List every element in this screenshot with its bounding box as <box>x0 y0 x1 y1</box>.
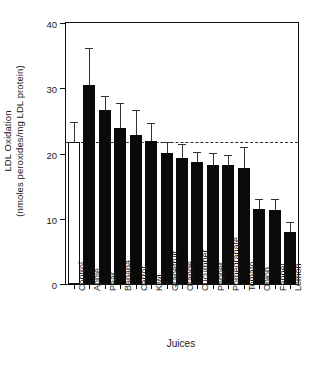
error-bar-cap-pepper <box>209 153 217 154</box>
y-tick-30: 30 <box>60 88 66 89</box>
error-bar-cap-control <box>70 122 78 123</box>
x-tick-pear <box>105 284 106 289</box>
error-bar-stem-kiwi <box>151 123 152 141</box>
error-bar-stem-onion <box>259 199 260 209</box>
bar-pear <box>99 110 111 284</box>
error-bar-stem-lemon <box>290 222 291 232</box>
x-category-label-apple: Apple <box>92 268 102 291</box>
x-category-label-lemon: Lemon <box>293 263 303 291</box>
x-tick-cucumber <box>197 284 198 289</box>
x-tick-carrot <box>136 284 137 289</box>
x-category-label-kiwi: Kiwi <box>154 274 164 291</box>
x-tick-pomegranate <box>228 284 229 289</box>
y-tick-20: 20 <box>60 154 66 155</box>
error-bar-stem-carrot <box>136 110 137 135</box>
x-category-label-tomato: Tomato <box>247 261 257 291</box>
error-bar-stem-grapefruit <box>167 142 168 153</box>
error-bar-cap-lemon <box>286 222 294 223</box>
error-bar-cap-apple <box>85 48 93 49</box>
x-category-label-onion: Onion <box>262 267 272 291</box>
error-bar-cap-tomato <box>240 147 248 148</box>
x-category-label-pepper: Pepper <box>216 262 226 291</box>
x-tick-pepper <box>213 284 214 289</box>
x-tick-tomato <box>244 284 245 289</box>
x-tick-banana <box>120 284 121 289</box>
x-tick-fennel <box>275 284 276 289</box>
error-bar-cap-fennel <box>271 199 279 200</box>
error-bar-cap-kiwi <box>147 123 155 124</box>
error-bar-stem-banana <box>120 103 121 128</box>
error-bar-stem-apple <box>89 48 90 85</box>
y-tick-label-10: 10 <box>46 214 57 225</box>
y-tick-label-30: 30 <box>46 84 57 95</box>
error-bar-stem-orange <box>182 144 183 158</box>
x-category-label-fennel: Fennel <box>278 263 288 291</box>
error-bar-cap-pear <box>101 96 109 97</box>
x-category-label-carrot: Carrot <box>139 266 149 291</box>
error-bar-cap-orange <box>178 144 186 145</box>
x-category-label-banana: Banana <box>123 260 133 291</box>
y-tick-10: 10 <box>60 219 66 220</box>
error-bar-stem-pomegranate <box>228 155 229 165</box>
error-bar-cap-banana <box>116 103 124 104</box>
plot-area: 010203040 <box>65 22 299 285</box>
error-bar-cap-cucumber <box>193 152 201 153</box>
y-tick-label-0: 0 <box>52 280 57 291</box>
y-axis-title-line-2: (nmoles peroxides/mg LDL protein) <box>14 11 25 271</box>
y-axis-title: LDL Oxidation (nmoles peroxides/mg LDL p… <box>0 0 36 290</box>
y-tick-0: 0 <box>60 284 66 285</box>
error-bar-stem-pear <box>105 96 106 110</box>
x-category-label-grapefruit: Grapefruit <box>170 251 180 291</box>
error-bar-stem-cucumber <box>197 152 198 162</box>
x-category-label-cucumber: Cucumber <box>200 249 210 291</box>
y-tick-label-40: 40 <box>46 19 57 30</box>
y-tick-label-20: 20 <box>46 149 57 160</box>
x-tick-apple <box>89 284 90 289</box>
x-axis-title: Juices <box>65 338 297 349</box>
error-bar-cap-grapefruit <box>163 142 171 143</box>
y-axis-title-line-1: LDL Oxidation <box>2 11 13 271</box>
error-bar-cap-onion <box>255 199 263 200</box>
chart-figure: LDL Oxidation (nmoles peroxides/mg LDL p… <box>0 0 318 366</box>
x-category-label-pomegranate: Pomegranate <box>231 237 241 291</box>
error-bar-cap-carrot <box>132 110 140 111</box>
x-tick-orange <box>182 284 183 289</box>
error-bar-cap-pomegranate <box>224 155 232 156</box>
x-category-label-orange: Orange <box>185 261 195 291</box>
x-tick-onion <box>259 284 260 289</box>
x-tick-control <box>74 284 75 289</box>
bar-apple <box>83 85 95 284</box>
bar-kiwi <box>145 141 157 284</box>
error-bar-stem-pepper <box>213 153 214 165</box>
x-tick-grapefruit <box>167 284 168 289</box>
y-tick-40: 40 <box>60 23 66 24</box>
x-category-label-control: Control <box>77 262 87 291</box>
error-bar-stem-fennel <box>275 199 276 209</box>
error-bar-stem-control <box>74 122 75 142</box>
x-category-label-pear: Pear <box>108 272 118 291</box>
x-tick-kiwi <box>151 284 152 289</box>
x-tick-lemon <box>290 284 291 289</box>
error-bar-stem-tomato <box>244 147 245 168</box>
